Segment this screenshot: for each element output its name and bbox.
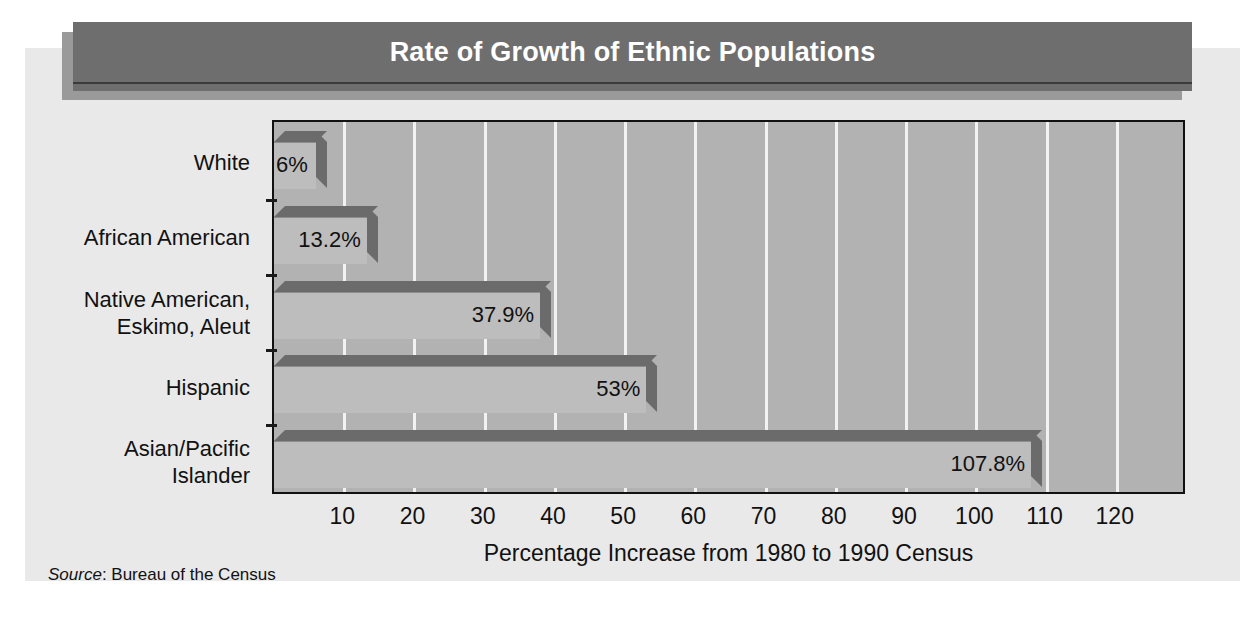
source-label: Source xyxy=(48,565,102,584)
source-note: Source: Bureau of the Census xyxy=(48,565,276,585)
category-label-1: African American xyxy=(84,224,262,251)
bar-side-face-3 xyxy=(646,355,657,412)
x-axis-tick-label-120: 120 xyxy=(1085,503,1145,530)
bar-side-face-4 xyxy=(1031,430,1042,487)
bar-top-face-3 xyxy=(274,355,657,366)
bar-top-face-2 xyxy=(274,281,551,292)
bar-value-label-4: 107.8% xyxy=(274,450,1025,478)
x-axis-tick-label-100: 100 xyxy=(944,503,1004,530)
gridline-110 xyxy=(1046,122,1049,492)
category-label-2: Native American, Eskimo, Aleut xyxy=(84,286,262,340)
x-axis-tick-label-90: 90 xyxy=(874,503,934,530)
gridline-120 xyxy=(1116,122,1119,492)
y-axis-tick-2 xyxy=(266,274,277,277)
category-label-0: White xyxy=(194,149,262,176)
category-axis-labels: WhiteAfrican AmericanNative American, Es… xyxy=(0,120,262,494)
x-axis-tick-label-40: 40 xyxy=(523,503,583,530)
x-axis-tick-label-50: 50 xyxy=(593,503,653,530)
bar-value-label-2: 37.9% xyxy=(274,301,534,329)
bar-value-label-1: 13.2% xyxy=(274,226,361,254)
chart-title: Rate of Growth of Ethnic Populations xyxy=(73,22,1192,82)
title-rule xyxy=(73,82,1192,84)
x-axis-tick-label-60: 60 xyxy=(663,503,723,530)
bar-value-label-3: 53% xyxy=(274,375,640,403)
category-label-4: Asian/Pacific Islander xyxy=(124,435,262,489)
y-axis-tick-4 xyxy=(266,424,277,427)
bar-top-face-1 xyxy=(274,206,378,217)
y-axis-tick-1 xyxy=(266,199,277,202)
category-label-3: Hispanic xyxy=(166,374,262,401)
y-axis-tick-3 xyxy=(266,349,277,352)
bar-value-label-0: 6% xyxy=(276,151,322,179)
x-axis-tick-label-110: 110 xyxy=(1015,503,1075,530)
x-axis-tick-label-70: 70 xyxy=(734,503,794,530)
source-value: : Bureau of the Census xyxy=(102,565,276,584)
x-axis-title: Percentage Increase from 1980 to 1990 Ce… xyxy=(272,540,1185,567)
plot-area: 6%13.2%37.9%53%107.8% xyxy=(272,120,1185,494)
bar-side-face-2 xyxy=(540,281,551,338)
x-axis-tick-label-30: 30 xyxy=(453,503,513,530)
bar-side-face-1 xyxy=(367,206,378,263)
x-axis-tick-label-80: 80 xyxy=(804,503,864,530)
x-axis-tick-label-10: 10 xyxy=(312,503,372,530)
chart-figure: Rate of Growth of Ethnic Populations Whi… xyxy=(0,0,1244,619)
bar-top-face-4 xyxy=(274,430,1042,441)
x-axis-tick-label-20: 20 xyxy=(382,503,442,530)
title-banner: Rate of Growth of Ethnic Populations xyxy=(73,22,1192,91)
